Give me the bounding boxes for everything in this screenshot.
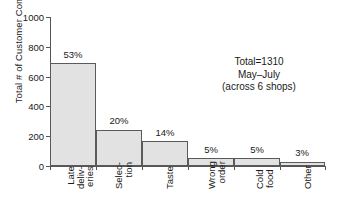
bar-label-selection: 20% [109, 115, 128, 126]
annotation-period: May–July [188, 69, 330, 82]
bar-cold-food[interactable] [234, 158, 280, 166]
y-tick-1000: 1000 [10, 12, 50, 23]
bar-label-other: 3% [295, 147, 309, 158]
bar-label-taste: 14% [155, 127, 174, 138]
y-tick-800: 800 [10, 41, 50, 52]
y-tick-0: 0 [10, 161, 50, 172]
bar-label-late-deliveries: 53% [63, 49, 82, 60]
x-tick-mark-6 [325, 166, 326, 170]
bar-selection[interactable] [96, 130, 142, 167]
complaints-bar-chart: Total # of Customer Complaints 0 200 400… [0, 0, 338, 215]
x-tick-mark-1 [96, 166, 97, 170]
x-tick-mark-2 [142, 166, 143, 170]
x-category-late-deliveries: Late deliv- eries [66, 166, 95, 189]
annotation-scope: (across 6 shops) [188, 81, 330, 94]
x-tick-mark-0 [50, 166, 51, 170]
y-tick-600: 600 [10, 71, 50, 82]
x-tick-mark-4 [234, 166, 235, 170]
y-tick-200: 200 [10, 131, 50, 142]
annotation-block: Total=1310 May–July (across 6 shops) [188, 56, 330, 94]
x-category-wrong-order: Wrong order [207, 161, 226, 189]
y-tick-400: 400 [10, 101, 50, 112]
x-tick-mark-5 [280, 166, 281, 170]
bar-taste[interactable] [142, 141, 188, 166]
x-category-cold-food: Cold food [255, 169, 274, 189]
x-tick-mark-3 [188, 166, 189, 170]
bar-label-cold-food: 5% [250, 144, 264, 155]
y-tick-mark-1000 [46, 17, 50, 18]
bar-late-deliveries[interactable] [50, 63, 96, 166]
x-category-taste: Taste [165, 166, 175, 189]
x-category-selection: Selec- tion [114, 162, 133, 189]
y-tick-mark-800 [46, 47, 50, 48]
annotation-total: Total=1310 [188, 56, 330, 69]
x-category-other: Other [303, 165, 313, 189]
bar-label-wrong-order: 5% [204, 144, 218, 155]
